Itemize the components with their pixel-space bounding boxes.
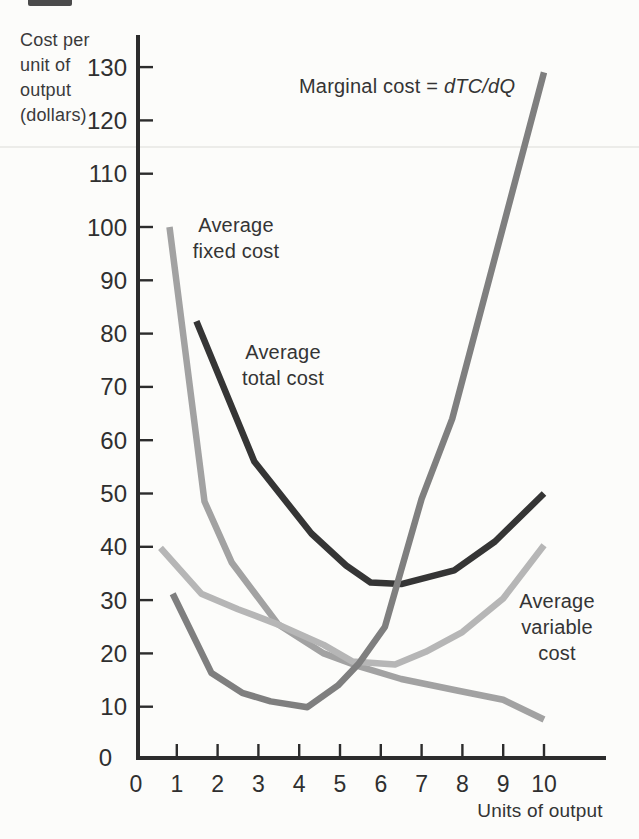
- curve-label-average-variable-cost: Average variable cost: [504, 588, 610, 666]
- x-tick-label: 0: [130, 771, 143, 797]
- y-tick-label: 40: [100, 533, 127, 560]
- marginal-cost-formula: dTC/dQ: [444, 75, 515, 97]
- x-tick-label: 5: [334, 771, 347, 797]
- x-axis-title: Units of output: [470, 798, 610, 824]
- x-tick-label: 6: [374, 771, 387, 797]
- y-tick-label: 70: [100, 373, 127, 400]
- y-tick-label: 20: [100, 640, 127, 667]
- curve-label-average-total-cost: Average total cost: [227, 339, 339, 391]
- y-zero-label: 0: [99, 744, 112, 771]
- curve-avc: [161, 545, 545, 664]
- y-tick-label: 90: [100, 267, 127, 294]
- curve-label-average-fixed-cost: Average fixed cost: [186, 212, 286, 264]
- x-tick-label: 3: [252, 771, 265, 797]
- marginal-cost-label-text: Marginal cost =: [299, 75, 444, 97]
- x-tick-label: 9: [497, 771, 510, 797]
- y-tick-label: 10: [100, 693, 127, 720]
- y-tick-label: 110: [89, 160, 127, 187]
- x-tick-label: 4: [293, 771, 306, 797]
- y-tick-label: 30: [100, 587, 127, 614]
- y-tick-label: 50: [100, 480, 127, 507]
- y-tick-label: 80: [100, 320, 127, 347]
- y-tick-label: 100: [87, 214, 127, 241]
- x-tick-label: 2: [211, 771, 224, 797]
- y-tick-label: 60: [100, 427, 127, 454]
- x-tick-label: 10: [531, 771, 557, 797]
- x-tick-label: 8: [456, 771, 469, 797]
- figure-canvas: 0102030405060708090100110120130012345678…: [0, 0, 639, 839]
- x-tick-label: 7: [415, 771, 428, 797]
- y-axis-title: Cost per unit of output (dollars): [20, 28, 110, 128]
- x-tick-label: 1: [170, 771, 183, 797]
- curve-label-marginal-cost: Marginal cost = dTC/dQ: [299, 73, 515, 99]
- curve-afc: [170, 227, 545, 720]
